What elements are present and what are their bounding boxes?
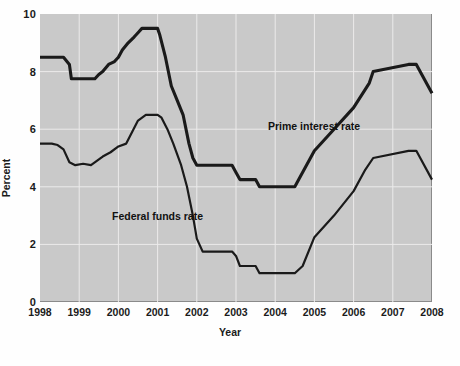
x-axis-title: Year (0, 326, 460, 338)
x-tick-label: 2004 (264, 306, 287, 318)
x-tick-label: 2008 (420, 306, 443, 318)
x-tick-label: 2007 (381, 306, 404, 318)
x-tick-label: 1999 (68, 306, 91, 318)
data-series-lines (40, 14, 432, 302)
y-axis-title: Percent (0, 148, 12, 208)
x-tick-label: 2005 (303, 306, 326, 318)
annotation-federal-funds-rate: Federal funds rate (112, 210, 203, 222)
chart-figure: 0246810 Percent Prime interest rate Fede… (0, 0, 460, 366)
x-axis-tick-labels: 1998199920002001200220032004200520062007… (40, 306, 432, 322)
x-tick-label: 2000 (107, 306, 130, 318)
x-tick-label: 1998 (28, 306, 51, 318)
y-tick-label: 6 (4, 123, 36, 135)
x-tick-label: 2003 (224, 306, 247, 318)
y-tick-label: 2 (4, 238, 36, 250)
annotation-prime-interest-rate: Prime interest rate (268, 120, 360, 132)
x-tick-label: 2006 (342, 306, 365, 318)
plot-area: Prime interest rate Federal funds rate (40, 14, 432, 302)
y-tick-label: 10 (4, 8, 36, 20)
y-tick-label: 8 (4, 66, 36, 78)
x-tick-label: 2001 (146, 306, 169, 318)
x-tick-label: 2002 (185, 306, 208, 318)
